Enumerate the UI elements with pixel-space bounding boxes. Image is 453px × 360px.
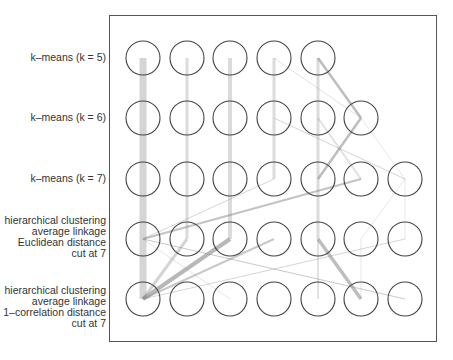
label-line: k–means (k = 6)	[30, 112, 106, 123]
flow-line	[143, 179, 361, 239]
label-line: k–means (k = 5)	[30, 52, 106, 63]
flow-line	[361, 179, 405, 239]
flow-line	[318, 58, 361, 118]
cluster-node	[257, 282, 291, 316]
row-label-hclust-correlation: hierarchical clustering average linkage …	[3, 285, 106, 329]
label-line: cut at 7	[4, 248, 106, 259]
row-label-hclust-euclidean: hierarchical clustering average linkage …	[4, 215, 106, 259]
cluster-node	[170, 282, 204, 316]
label-line: k–means (k = 7)	[30, 173, 106, 184]
label-line: cut at 7	[3, 318, 106, 329]
row-label-kmeans-5: k–means (k = 5)	[30, 52, 106, 63]
row-label-kmeans-6: k–means (k = 6)	[30, 112, 106, 123]
flow-line	[318, 239, 361, 299]
flow-lines	[143, 58, 405, 299]
row-label-kmeans-7: k–means (k = 7)	[30, 173, 106, 184]
flow-line	[361, 118, 405, 179]
flow-line	[143, 239, 274, 299]
